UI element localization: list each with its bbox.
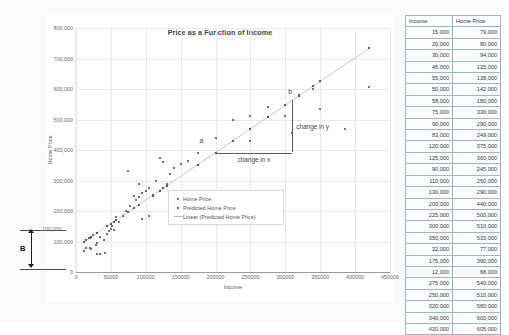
- data-point: [133, 195, 135, 197]
- table-row[interactable]: 12,00068,000: [406, 266, 501, 277]
- data-point: [85, 247, 87, 249]
- table-row[interactable]: 58,000180,000: [406, 95, 501, 106]
- cell-home-price[interactable]: 605,000: [453, 323, 501, 334]
- cell-income[interactable]: 340,000: [406, 312, 453, 323]
- table-row[interactable]: 120,000375,000: [406, 141, 501, 152]
- cell-income[interactable]: 50,000: [406, 84, 453, 95]
- table-row[interactable]: 90,000290,000: [406, 118, 501, 129]
- cell-home-price[interactable]: 290,000: [453, 118, 501, 129]
- cell-income[interactable]: 350,000: [406, 232, 453, 243]
- data-point: [232, 140, 234, 142]
- cell-home-price[interactable]: 510,000: [453, 289, 501, 300]
- cell-home-price[interactable]: 77,000: [453, 244, 501, 255]
- cell-home-price[interactable]: 249,000: [453, 130, 501, 141]
- data-point: [312, 85, 314, 87]
- chart-card: Price as a Function of Income 0100,00020…: [46, 14, 394, 302]
- gridline-vertical: [390, 28, 391, 272]
- table-row[interactable]: 250,000510,000: [406, 289, 501, 300]
- table-row[interactable]: 55,000138,000: [406, 73, 501, 84]
- cell-income[interactable]: 175,000: [406, 255, 453, 266]
- cell-income[interactable]: 12,000: [406, 266, 453, 277]
- cell-home-price[interactable]: 125,000: [453, 61, 501, 72]
- cell-home-price[interactable]: 68,000: [453, 266, 501, 277]
- data-point: [284, 115, 286, 117]
- cell-income[interactable]: 320,000: [406, 301, 453, 312]
- cell-income[interactable]: 75,000: [406, 107, 453, 118]
- table-row[interactable]: 350,000533,000: [406, 232, 501, 243]
- table-row[interactable]: 300,000510,000: [406, 221, 501, 232]
- legend-item[interactable]: Linear (Predicted Home Price): [173, 212, 279, 221]
- legend-square-icon: [173, 198, 183, 200]
- table-row[interactable]: 420,000605,000: [406, 323, 501, 334]
- cell-home-price[interactable]: 250,000: [453, 175, 501, 186]
- cell-home-price[interactable]: 375,000: [453, 141, 501, 152]
- cell-income[interactable]: 275,000: [406, 278, 453, 289]
- table-row[interactable]: 340,000600,000: [406, 312, 501, 323]
- table-row[interactable]: 45,000125,000: [406, 61, 501, 72]
- cell-income[interactable]: 250,000: [406, 289, 453, 300]
- legend-item[interactable]: Home Price: [173, 194, 279, 203]
- table-row[interactable]: 130,000290,000: [406, 187, 501, 198]
- cell-home-price[interactable]: 290,000: [453, 187, 501, 198]
- table-row[interactable]: 20,00080,000: [406, 38, 501, 49]
- cell-income[interactable]: 420,000: [406, 323, 453, 334]
- cell-home-price[interactable]: 500,000: [453, 209, 501, 220]
- table-row[interactable]: 320,000580,000: [406, 301, 501, 312]
- intercept-label: B: [20, 244, 25, 253]
- cell-income[interactable]: 22,000: [406, 244, 453, 255]
- cell-income[interactable]: 90,000: [406, 118, 453, 129]
- cell-income[interactable]: 55,000: [406, 73, 453, 84]
- cell-income[interactable]: 20,000: [406, 38, 453, 49]
- cell-home-price[interactable]: 245,000: [453, 164, 501, 175]
- cell-home-price[interactable]: 360,000: [453, 152, 501, 163]
- table-row[interactable]: 83,000249,000: [406, 130, 501, 141]
- table-row[interactable]: 200,000440,000: [406, 198, 501, 209]
- cell-home-price[interactable]: 94,000: [453, 50, 501, 61]
- table-row[interactable]: 30,00094,000: [406, 50, 501, 61]
- data-point: [90, 248, 92, 250]
- cell-income[interactable]: 225,000: [406, 209, 453, 220]
- data-point: [99, 236, 101, 238]
- cell-home-price[interactable]: 142,000: [453, 84, 501, 95]
- cell-income[interactable]: 200,000: [406, 198, 453, 209]
- table-row[interactable]: 175,000390,000: [406, 255, 501, 266]
- cell-home-price[interactable]: 600,000: [453, 312, 501, 323]
- table-row[interactable]: 275,000540,000: [406, 278, 501, 289]
- cell-home-price[interactable]: 510,000: [453, 221, 501, 232]
- cell-income[interactable]: 30,000: [406, 50, 453, 61]
- table-row[interactable]: 75,000330,000: [406, 107, 501, 118]
- legend-item[interactable]: Predicted Home Price: [173, 203, 279, 212]
- cell-income[interactable]: 45,000: [406, 61, 453, 72]
- cell-income[interactable]: 83,000: [406, 130, 453, 141]
- cell-income[interactable]: 130,000: [406, 187, 453, 198]
- cell-home-price[interactable]: 180,000: [453, 95, 501, 106]
- cell-home-price[interactable]: 138,000: [453, 73, 501, 84]
- table-row[interactable]: 90,000245,000: [406, 164, 501, 175]
- cell-home-price[interactable]: 390,000: [453, 255, 501, 266]
- table-row[interactable]: 50,000142,000: [406, 84, 501, 95]
- cell-home-price[interactable]: 540,000: [453, 278, 501, 289]
- cell-home-price[interactable]: 580,000: [453, 301, 501, 312]
- cell-home-price[interactable]: 533,000: [453, 232, 501, 243]
- cell-income[interactable]: 120,000: [406, 141, 453, 152]
- x-tick-label: 50000: [103, 274, 118, 280]
- cell-income[interactable]: 110,000: [406, 175, 453, 186]
- data-point: [155, 180, 157, 182]
- cell-income[interactable]: 58,000: [406, 95, 453, 106]
- table-row[interactable]: 22,00077,000: [406, 244, 501, 255]
- cell-home-price[interactable]: 440,000: [453, 198, 501, 209]
- table-row[interactable]: 110,000250,000: [406, 175, 501, 186]
- table-row[interactable]: 125,000360,000: [406, 152, 501, 163]
- table-row[interactable]: 225,000500,000: [406, 209, 501, 220]
- data-point: [138, 196, 140, 198]
- cell-home-price[interactable]: 79,000: [453, 27, 501, 38]
- data-point: [152, 194, 154, 196]
- cell-income[interactable]: 15,000: [406, 27, 453, 38]
- cell-income[interactable]: 125,000: [406, 152, 453, 163]
- cell-income[interactable]: 90,000: [406, 164, 453, 175]
- table-row[interactable]: 15,00079,000: [406, 27, 501, 38]
- data-point: [148, 215, 150, 217]
- cell-home-price[interactable]: 80,000: [453, 38, 501, 49]
- cell-home-price[interactable]: 330,000: [453, 107, 501, 118]
- cell-income[interactable]: 300,000: [406, 221, 453, 232]
